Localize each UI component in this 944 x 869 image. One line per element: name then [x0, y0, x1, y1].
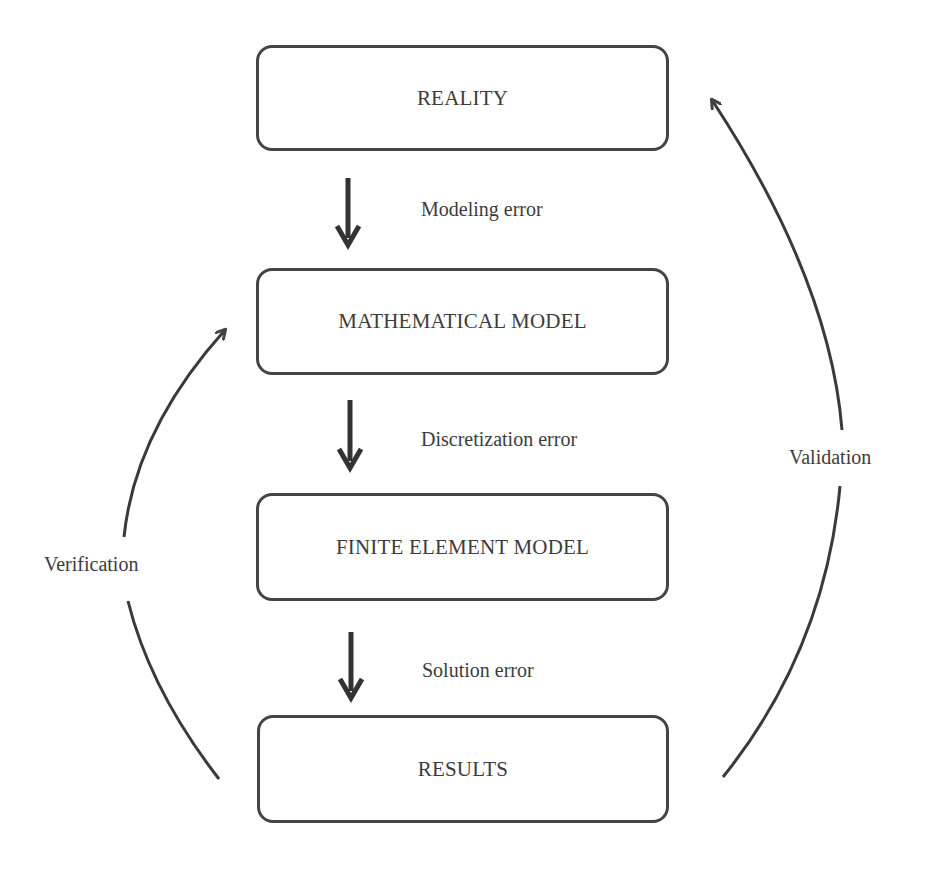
discretization-error-label: Discretization error — [421, 428, 577, 451]
finite-element-model-label: FINITE ELEMENT MODEL — [336, 535, 589, 560]
results-label: RESULTS — [418, 757, 509, 782]
down-arrow-icon-2 — [339, 400, 361, 468]
reality-label: REALITY — [417, 86, 508, 111]
results-box: RESULTS — [257, 715, 669, 823]
mathematical-model-box: MATHEMATICAL MODEL — [256, 268, 669, 375]
validation-label: Validation — [789, 446, 871, 469]
finite-element-model-box: FINITE ELEMENT MODEL — [256, 493, 669, 601]
down-arrow-icon-1 — [337, 178, 359, 245]
modeling-error-label: Modeling error — [421, 198, 543, 221]
mathematical-model-label: MATHEMATICAL MODEL — [338, 309, 586, 334]
validation-curve-arrow-icon — [712, 100, 842, 777]
diagram-canvas: REALITY MATHEMATICAL MODEL FINITE ELEMEN… — [0, 0, 944, 869]
verification-label: Verification — [44, 553, 138, 576]
verification-curve-arrow-icon — [124, 330, 225, 779]
reality-box: REALITY — [256, 45, 669, 151]
down-arrow-icon-3 — [340, 632, 362, 698]
solution-error-label: Solution error — [422, 659, 534, 682]
